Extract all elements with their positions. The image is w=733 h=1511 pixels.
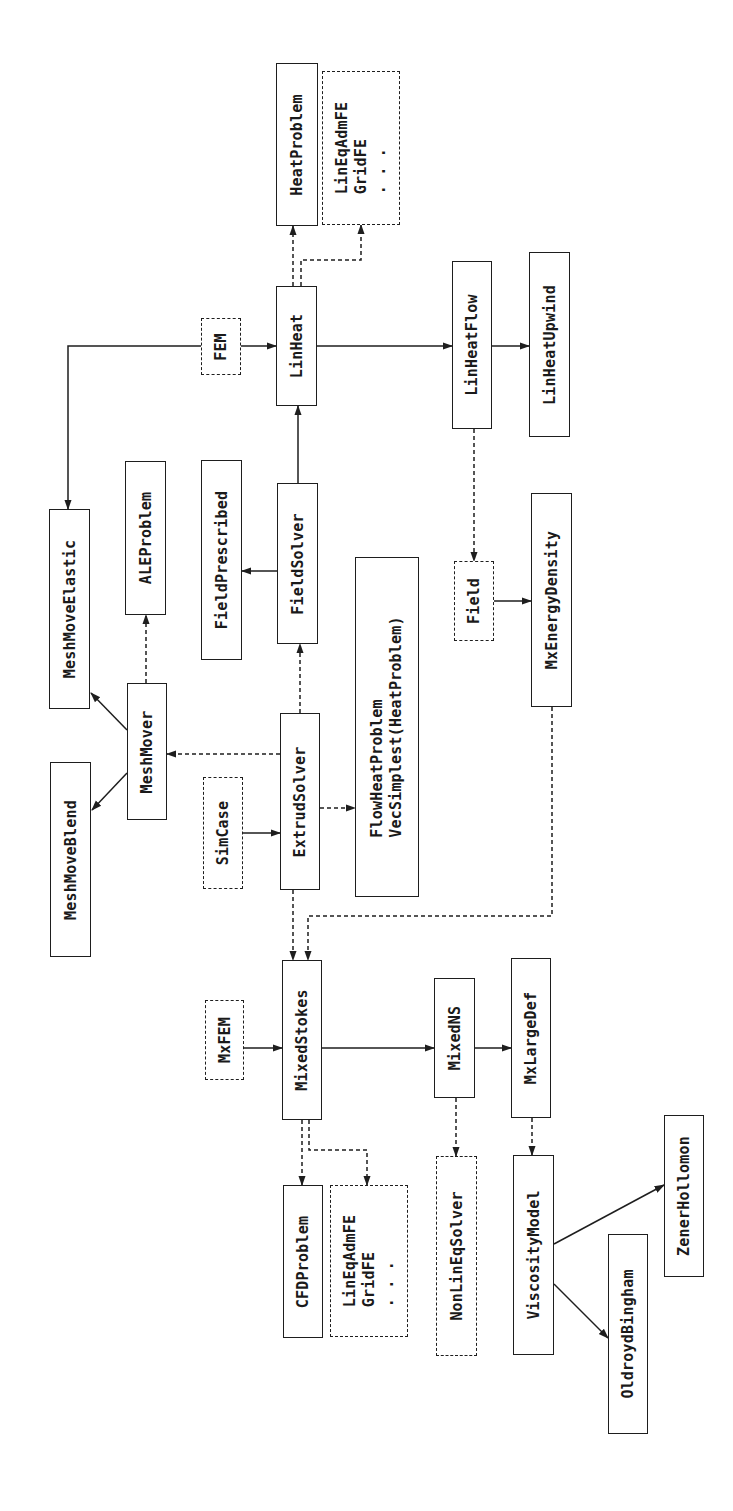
- node-label: ZenerHollomon: [675, 1136, 694, 1256]
- node-fieldprescribed: FieldPrescribed: [201, 460, 242, 660]
- node-label: FEM: [212, 333, 231, 361]
- node-mxfem: MxFEM: [205, 1000, 244, 1080]
- node-oldroydbingham: OldroydBingham: [608, 1234, 648, 1434]
- edge-mxenergydensity-to-mixedstokes: [308, 707, 552, 960]
- node-label: FlowHeatProblem VecSimplest(HeatProblem): [368, 616, 406, 838]
- node-simcase: SimCase: [203, 777, 243, 889]
- edge-linheat-to-lineqadmfe_1: [301, 225, 361, 286]
- node-label: FieldPrescribed: [212, 491, 231, 629]
- node-label: MeshMoveBlend: [61, 800, 80, 920]
- node-label: Field: [465, 578, 484, 624]
- edge-viscositymodel-to-oldroydbingham: [554, 1284, 608, 1338]
- node-aleproblem: ALEProblem: [125, 461, 166, 615]
- node-zenerhollomon: ZenerHollomon: [664, 1115, 704, 1277]
- node-heatproblem: HeatProblem: [276, 63, 318, 226]
- node-meshmover: MeshMover: [127, 683, 167, 820]
- node-meshmoveblend: MeshMoveBlend: [50, 762, 91, 957]
- node-meshmoveelastic: MeshMoveElastic: [49, 509, 90, 709]
- node-label: ViscosityModel: [524, 1190, 543, 1319]
- node-label: MixedNS: [445, 1006, 464, 1071]
- node-label: LinHeatFlow: [463, 294, 482, 396]
- node-label: MeshMover: [138, 710, 157, 793]
- edge-mixedstokes-to-lineqadmfe_2: [309, 1120, 367, 1185]
- node-label: LinHeatUpwind: [540, 285, 559, 405]
- node-label: MixedStokes: [293, 989, 312, 1091]
- node-fem: FEM: [201, 318, 241, 375]
- node-label: CFDProblem: [294, 1215, 313, 1307]
- node-lineqadmfe-1: LinEqAdmFE GridFE . . .: [322, 71, 400, 225]
- node-fieldsolver: FieldSolver: [277, 483, 318, 644]
- node-linheatflow: LinHeatFlow: [452, 261, 492, 429]
- node-label: NonLinEqSolver: [447, 1191, 466, 1320]
- node-mixedns: MixedNS: [434, 978, 475, 1098]
- node-cfdproblem: CFDProblem: [283, 1185, 323, 1338]
- node-label: HeatProblem: [288, 94, 307, 196]
- node-lineqadmfe-2: LinEqAdmFE GridFE . . .: [330, 1185, 408, 1337]
- node-field: Field: [454, 561, 494, 641]
- node-label: LinEqAdmFE GridFE . . .: [341, 1215, 398, 1307]
- node-label: SimCase: [214, 801, 233, 866]
- node-extrudsolver: ExtrudSolver: [280, 713, 320, 890]
- node-label: MxLargeDef: [522, 992, 541, 1084]
- node-label: FieldSolver: [288, 513, 307, 615]
- node-viscositymodel: ViscosityModel: [513, 1155, 554, 1355]
- node-mxlargedef: MxLargeDef: [511, 958, 551, 1118]
- node-linheatupwind: LinHeatUpwind: [529, 252, 570, 437]
- edge-meshmover-to-meshmoveelastic: [91, 693, 127, 730]
- node-label: MxEnergyDensity: [542, 531, 561, 669]
- node-mixedstokes: MixedStokes: [282, 960, 322, 1120]
- node-flowheatproblem: FlowHeatProblem VecSimplest(HeatProblem): [355, 557, 419, 897]
- node-label: MxFEM: [215, 1017, 234, 1063]
- node-nonlineqsolver: NonLinEqSolver: [436, 1156, 477, 1356]
- node-label: MeshMoveElastic: [60, 540, 79, 678]
- node-label: ALEProblem: [136, 492, 155, 584]
- edge-meshmover-to-meshmoveblend: [92, 773, 127, 810]
- node-label: ExtrudSolver: [291, 746, 310, 857]
- node-label: LinHeat: [287, 314, 306, 379]
- node-mxenergydensity: MxEnergyDensity: [531, 493, 572, 707]
- node-label: OldroydBingham: [619, 1269, 638, 1398]
- node-label: LinEqAdmFE GridFE . . .: [333, 102, 390, 194]
- node-linheat: LinHeat: [276, 286, 317, 406]
